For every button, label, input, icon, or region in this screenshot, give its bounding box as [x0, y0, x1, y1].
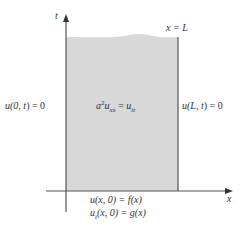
pde-equation: a2uxx = utt: [96, 100, 135, 111]
ic1-args: (x, 0) =: [95, 194, 128, 205]
left-bc-post: ) = 0: [26, 100, 45, 111]
t-axis-arrow-icon: [63, 14, 69, 22]
right-bc-post: ) = 0: [204, 100, 223, 111]
ic1-fx: (x): [131, 194, 142, 205]
pde-equals: =: [116, 100, 127, 111]
left-bc-pre: u(0,: [5, 100, 23, 111]
pde-sub-tt: tt: [131, 106, 135, 114]
initial-condition-displacement: u(x, 0) = f(x): [90, 194, 142, 205]
left-boundary-condition: u(0, t) = 0: [5, 100, 45, 111]
right-boundary-condition: u(L, t) = 0: [182, 100, 223, 111]
t-axis-label: t: [55, 10, 58, 21]
shaded-domain-region: [66, 34, 178, 191]
x-axis-label: x: [227, 193, 231, 204]
initial-condition-velocity: ut(x, 0) = g(x): [90, 207, 146, 218]
ic2-args: (x, 0) =: [97, 207, 130, 218]
ic2-fx: (x): [135, 207, 146, 218]
right-boundary-label: x = L: [166, 22, 188, 33]
